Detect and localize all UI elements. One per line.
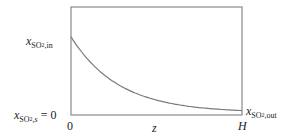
y-label-inlet: xSO2,in (26, 35, 53, 47)
y-label-equilibrium: xSO2,s = 0 (14, 109, 56, 121)
x-axis-label: z (152, 122, 157, 134)
x-tick-H: H (238, 120, 247, 132)
decay-curve (71, 37, 242, 111)
plot-frame (71, 7, 242, 115)
x-tick-zero: 0 (67, 120, 73, 132)
right-label-outlet: xSO2,out (246, 105, 277, 117)
